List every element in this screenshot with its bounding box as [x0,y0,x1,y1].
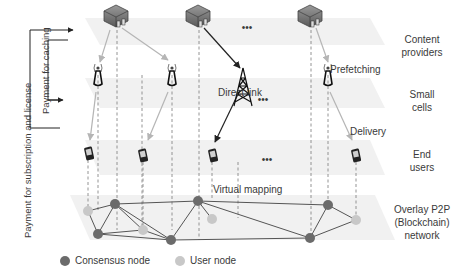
user-node [138,225,148,235]
user-node-swatch [175,256,185,266]
consensus-node [110,199,120,209]
payment-brackets [30,30,73,128]
consensus-node [323,200,333,210]
payment-subscription-label: Payment for subscription and license [22,83,33,238]
ellipsis-small-cells: ••• [253,93,273,106]
plane-end-users [85,140,385,175]
delivery-label: Delivery [350,125,420,138]
consensus-node-swatch [60,256,70,266]
plane-content-providers [85,18,385,45]
payment-caching-label: Payment for caching [40,27,51,114]
ellipsis-providers: ••• [237,21,257,34]
user-node [207,214,217,224]
virtual-mapping-label: Virtual mapping [213,183,313,196]
consensus-node [166,235,176,245]
user-node [351,215,361,225]
consensus-node [305,233,315,243]
layer-label-content-providers: Content providers [377,33,462,59]
layer-label-small-cells: Small cells [377,88,462,114]
consensus-node [193,196,203,206]
user-node [83,206,93,216]
layer-label-overlay: Overlay P2P (Blockchain) network [377,203,462,242]
layer-label-end-users: End users [377,148,462,174]
legend-consensus: Consensus node [60,255,150,266]
prefetching-label: Prefetching [330,63,400,76]
legend-user: User node [175,255,236,266]
ellipsis-end-users: ••• [257,153,277,166]
consensus-node [93,229,103,239]
